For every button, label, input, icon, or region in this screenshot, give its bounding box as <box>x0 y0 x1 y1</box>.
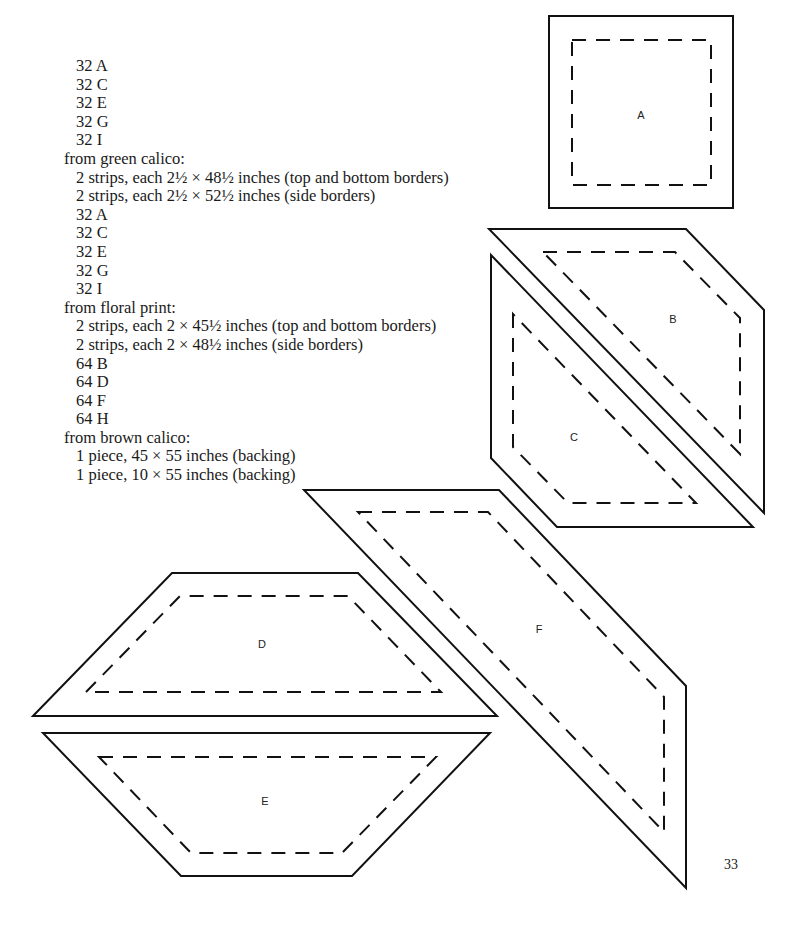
pattern-piece-e: E <box>43 733 490 876</box>
seam-line <box>543 252 740 454</box>
piece-label: A <box>637 109 645 121</box>
piece-label: D <box>258 638 266 650</box>
pattern-piece-a: A <box>549 16 733 208</box>
seam-line <box>358 512 664 832</box>
cutting-line <box>489 229 764 513</box>
piece-label: E <box>261 795 268 807</box>
pattern-piece-c: C <box>491 255 753 527</box>
piece-label: B <box>669 313 676 325</box>
seam-line <box>513 314 696 503</box>
page-number: 33 <box>724 857 738 873</box>
piece-label: C <box>570 431 578 443</box>
pattern-piece-b: B <box>489 229 764 513</box>
cutting-line <box>304 490 686 888</box>
piece-label: F <box>536 623 543 635</box>
pattern-piece-f: F <box>304 490 686 888</box>
cutting-line <box>491 255 753 527</box>
pattern-pieces-diagram: A B C F D E <box>0 0 792 931</box>
pattern-piece-d: D <box>33 573 497 716</box>
